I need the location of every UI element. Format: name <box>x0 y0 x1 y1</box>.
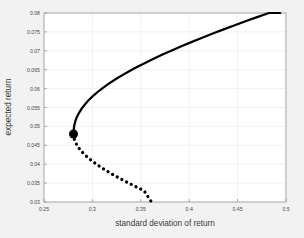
x-tick-label: 0.3 <box>89 206 96 212</box>
y-axis-title: expected return <box>4 79 13 136</box>
y-tick-label: 0.06 <box>14 86 40 92</box>
y-tick-label: 0.075 <box>14 29 40 35</box>
y-tick-label: 0.04 <box>14 161 40 167</box>
chart-figure: 0.030.0350.040.0450.050.0550.060.0650.07… <box>0 0 304 238</box>
x-tick-label: 0.45 <box>233 206 243 212</box>
y-tick-label: 0.035 <box>14 180 40 186</box>
y-tick-label: 0.07 <box>14 48 40 54</box>
x-tick-label: 0.4 <box>186 206 193 212</box>
x-tick-label: 0.35 <box>136 206 146 212</box>
minimum-variance-point <box>69 129 78 138</box>
plot-canvas <box>0 0 304 238</box>
y-tick-label: 0.065 <box>14 67 40 73</box>
y-tick-label: 0.045 <box>14 142 40 148</box>
data-marker-layer <box>69 129 78 138</box>
y-tick-label: 0.055 <box>14 105 40 111</box>
x-axis-title: standard deviation of return <box>115 219 215 228</box>
x-tick-label: 0.25 <box>39 206 49 212</box>
y-tick-label: 0.03 <box>14 199 40 205</box>
y-tick-label: 0.05 <box>14 123 40 129</box>
y-tick-label: 0.08 <box>14 10 40 16</box>
x-tick-label: 0.5 <box>282 206 289 212</box>
